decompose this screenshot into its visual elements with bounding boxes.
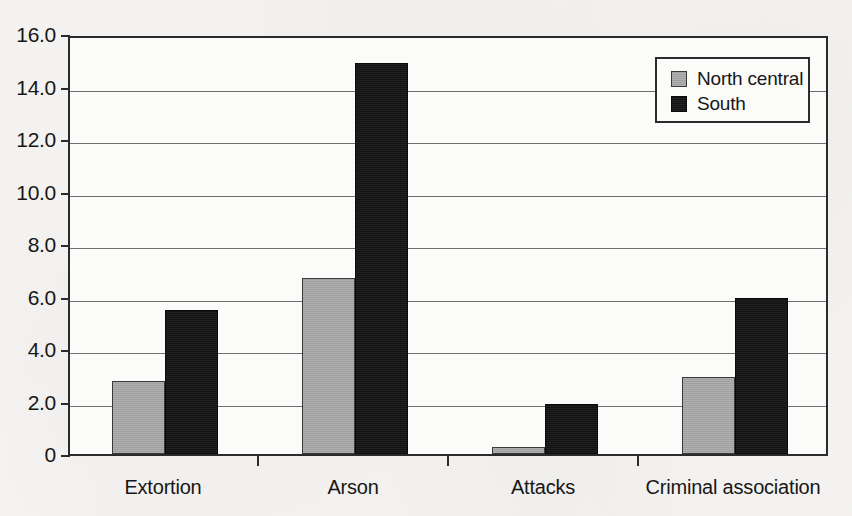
bar [545, 404, 598, 454]
legend-label: South [697, 93, 746, 115]
y-axis-tick-label: 6.0 [28, 286, 56, 310]
y-axis-tick-label: 4.0 [28, 338, 56, 362]
gridline [70, 248, 826, 249]
gridline [70, 196, 826, 197]
bar [165, 310, 218, 454]
y-axis-tick-label: 16.0 [16, 23, 56, 47]
legend-swatch-icon [671, 71, 687, 87]
x-axis-tick-mark [257, 456, 259, 466]
y-axis-tick-label: 14.0 [16, 76, 56, 100]
bar [492, 447, 545, 454]
y-axis-tick-label: 12.0 [16, 128, 56, 152]
x-axis-category-label: Criminal association [638, 476, 828, 499]
gridline [70, 301, 826, 302]
y-axis-tick-label: 0 [45, 443, 56, 467]
bar [735, 298, 788, 454]
gridline [70, 143, 826, 144]
x-axis-tick-mark [637, 456, 639, 466]
x-axis-category-label: Attacks [448, 476, 638, 499]
legend-item: North central [671, 66, 808, 91]
y-axis-tick-label: 2.0 [28, 391, 56, 415]
y-axis-tick-label: 8.0 [28, 233, 56, 257]
legend: North centralSouth [655, 57, 810, 123]
bar-chart-figure: 16.014.012.010.08.06.04.02.00 ExtortionA… [0, 0, 852, 516]
legend-swatch-icon [671, 96, 687, 112]
x-axis-category-label: Extortion [68, 476, 258, 499]
bar [302, 278, 355, 454]
legend-item: South [671, 91, 808, 116]
bar [355, 63, 408, 454]
x-axis-tick-mark [447, 456, 449, 466]
legend-label: North central [697, 68, 803, 90]
bar [682, 377, 735, 454]
bar [112, 381, 165, 455]
x-axis-category-label: Arson [258, 476, 448, 499]
y-axis-tick-label: 10.0 [16, 181, 56, 205]
